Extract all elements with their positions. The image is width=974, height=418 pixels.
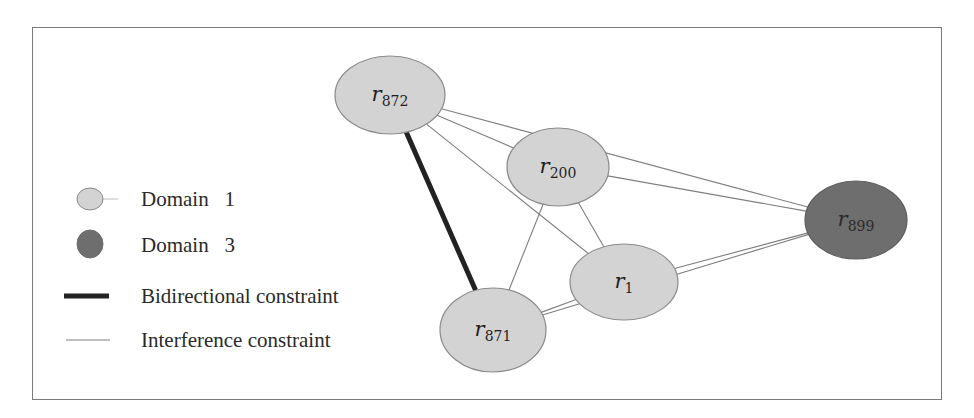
legend-label-domain3: Domain 3: [141, 233, 235, 257]
node-r872: r872: [335, 56, 445, 134]
domain1-ellipse-icon: [77, 188, 103, 210]
interference-edge-r872-r899: [441, 109, 807, 207]
interference-edge-r200-r899: [608, 176, 807, 211]
interference-edge-r200-r871: [509, 204, 543, 290]
interference-edge-r872-r200: [437, 115, 513, 148]
interference-edge-r200-r1: [578, 203, 603, 247]
legend-item-interference: Interference constraint: [66, 328, 331, 352]
bidirectional-edge-r872-r871: [406, 132, 475, 290]
legend-label-domain1: Domain 1: [141, 187, 235, 211]
legend-item-domain3: Domain 3: [77, 230, 235, 258]
legend-label-interference: Interference constraint: [141, 328, 331, 352]
legend-label-bidirectional: Bidirectional constraint: [141, 284, 339, 308]
interference-edge-r1-r899: [674, 233, 807, 269]
graph-nodes: r872r200r1r871r899: [335, 56, 907, 372]
legend-item-domain1: Domain 1: [77, 187, 235, 211]
figure-canvas: r872r200r1r871r899 Domain 1 Domain 3 Bid…: [0, 0, 974, 418]
node-r899: r899: [805, 181, 907, 259]
node-r871: r871: [440, 288, 546, 372]
node-r200: r200: [507, 128, 609, 206]
constraint-graph: r872r200r1r871r899 Domain 1 Domain 3 Bid…: [0, 0, 974, 418]
legend-item-bidirectional: Bidirectional constraint: [64, 284, 339, 308]
node-r1: r1: [570, 244, 678, 320]
legend: Domain 1 Domain 3 Bidirectional constrai…: [64, 187, 339, 352]
domain3-ellipse-icon: [77, 230, 103, 258]
